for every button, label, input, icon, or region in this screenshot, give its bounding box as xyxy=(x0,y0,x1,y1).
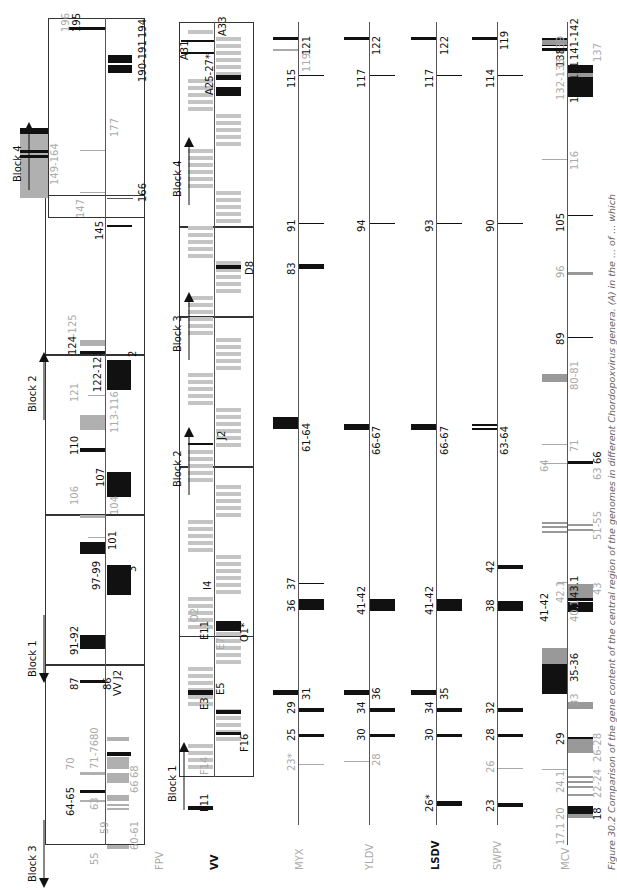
gene-bar xyxy=(80,150,105,151)
gene-bar xyxy=(568,776,593,778)
gene-label: 149-164 xyxy=(50,143,60,185)
gene-bar xyxy=(216,632,241,636)
gene-label: 83 xyxy=(287,262,297,275)
gene-bar xyxy=(273,417,298,429)
figure-caption: Figure 30.2 Comparison of the gene conte… xyxy=(606,194,617,870)
gene-bar xyxy=(498,565,523,569)
gene-bar xyxy=(216,265,241,269)
gene-label: 190-191 xyxy=(138,40,148,82)
track-axis xyxy=(369,22,370,825)
gene-label: 122 xyxy=(372,36,382,55)
gene-bar xyxy=(273,37,298,40)
gene-bar xyxy=(188,100,213,104)
gene-label: 80 xyxy=(90,727,100,740)
gene-label: 107 xyxy=(96,468,106,487)
gene-label: 196 xyxy=(61,13,71,32)
gene-bar xyxy=(216,737,241,741)
gene-bar xyxy=(80,790,105,793)
gene-label: 124 xyxy=(68,336,78,355)
track-axis xyxy=(567,22,568,845)
gene-bar xyxy=(299,223,324,224)
gene-label: 35 xyxy=(440,687,450,700)
block-label: Block 2 xyxy=(28,375,38,412)
gene-label: A31 xyxy=(180,40,190,60)
gene-label: 119 xyxy=(302,53,312,72)
gene-label: 122-123 xyxy=(93,350,103,392)
gene-bar xyxy=(299,264,324,269)
gene-label: 28 xyxy=(372,753,382,766)
track-axis xyxy=(436,22,437,825)
block-label: Block 1 xyxy=(168,765,178,802)
gene-label: 3 xyxy=(128,566,138,572)
gene-label: 63-64 xyxy=(500,426,510,455)
track-name-label: FPV xyxy=(154,851,165,870)
gene-label: 25 xyxy=(287,728,297,741)
gene-bar xyxy=(299,599,324,610)
track-axis xyxy=(497,22,498,825)
gene-label: 166 xyxy=(138,183,148,202)
fpv-axis xyxy=(105,18,106,845)
gene-label: 61-64 xyxy=(302,423,312,452)
gene-bar xyxy=(88,395,105,396)
gene-bar xyxy=(216,65,241,69)
gene-bar xyxy=(107,225,132,227)
gene-bar xyxy=(107,804,129,806)
gene-bar xyxy=(188,520,213,524)
gene-bar xyxy=(216,282,241,286)
gene-bar xyxy=(370,599,395,611)
gene-label: 36 xyxy=(287,599,297,612)
gene-label: 195 xyxy=(72,13,82,32)
gene-label: 43 xyxy=(593,582,603,595)
gene-bar xyxy=(542,526,567,528)
gene-label: 2 xyxy=(128,351,138,357)
gene-label: 68 xyxy=(130,765,140,778)
gene-bar xyxy=(344,690,369,695)
gene-label: F16 xyxy=(240,734,250,752)
gene-bar xyxy=(216,352,241,356)
gene-bar xyxy=(188,541,213,545)
gene-bar xyxy=(216,513,241,517)
track-name-label: SWPV xyxy=(492,841,503,870)
gene-bar xyxy=(80,515,105,518)
gene-bar xyxy=(370,734,395,737)
gene-label: F11 xyxy=(200,794,210,812)
gene-bar xyxy=(107,795,129,801)
gene-bar xyxy=(273,49,298,51)
gene-bar xyxy=(437,599,462,611)
gene-bar xyxy=(108,63,132,65)
gene-label: 18 xyxy=(593,807,603,820)
gene-label: 91 xyxy=(287,219,297,232)
gene-bar xyxy=(80,772,105,775)
gene-bar xyxy=(344,424,369,430)
gene-bar xyxy=(188,667,213,671)
gene-bar xyxy=(80,340,105,346)
gene-label: 43.1 xyxy=(570,576,580,598)
gene-bar xyxy=(107,757,129,769)
gene-label: 147 xyxy=(76,199,86,218)
gene-bar xyxy=(188,233,213,237)
gene-label: 194 xyxy=(138,19,148,38)
gene-bar xyxy=(370,708,395,712)
gene-bar xyxy=(188,107,213,111)
gene-label: 24.1 xyxy=(556,771,566,793)
gene-bar xyxy=(216,345,241,349)
gene-label: E11 xyxy=(200,621,210,640)
gene-bar xyxy=(107,360,131,390)
gene-label: I4 xyxy=(203,581,213,590)
gene-bar xyxy=(370,223,395,224)
gene-label: J2 xyxy=(217,431,227,440)
block-label: Block 4 xyxy=(13,145,23,182)
gene-label: 106 xyxy=(70,486,80,505)
gene-bar xyxy=(216,422,241,426)
gene-bar xyxy=(216,198,241,202)
gene-bar xyxy=(80,415,105,430)
gene-bar xyxy=(216,660,241,664)
gene-label: 51-55 xyxy=(593,511,603,540)
gene-label: 63 xyxy=(90,797,100,810)
gene-label: 117 xyxy=(357,69,367,88)
gene-bar xyxy=(216,37,241,41)
gene-label: 101 xyxy=(108,531,118,550)
track-name-label: YLDV xyxy=(364,844,375,870)
gene-bar xyxy=(188,401,213,405)
gene-bar xyxy=(437,75,462,76)
